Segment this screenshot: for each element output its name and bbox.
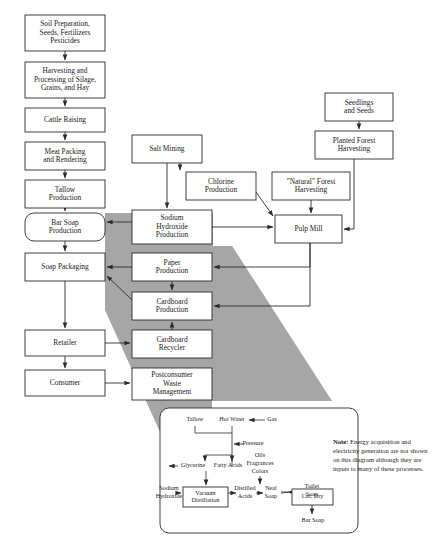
node-label-paper: Production [156, 266, 189, 275]
node-label-soil: Pesticides [50, 36, 80, 45]
node-label-retailer: Retailer [53, 338, 77, 347]
node-pulpmill[interactable]: Pulp Mill [275, 215, 342, 243]
inset-label-barsoap-out: Bar Soap [302, 516, 325, 523]
node-postconsumer[interactable]: PostconsumerWasteManagement [132, 368, 212, 400]
node-planted[interactable]: Planted ForestHarvesting [315, 131, 393, 159]
node-tallow[interactable]: TallowProduction [25, 180, 105, 208]
node-vacuum[interactable]: VacuumDistillation [183, 487, 228, 507]
node-chlorine[interactable]: ChlorineProduction [186, 172, 256, 200]
node-label-cardboard: Production [156, 305, 189, 314]
node-label-cattle: Cattle Raising [44, 115, 86, 124]
inset-label-oils: Oils [255, 451, 266, 458]
inset-label-distilled1: Distilled [234, 484, 256, 491]
node-natural[interactable]: "Natural" ForestHarvesting [272, 172, 350, 200]
inset-label-glycerine: Glycerine [181, 461, 206, 468]
node-label-barsoap: Production [49, 226, 82, 235]
inset-label-pressure: Pressure [243, 439, 264, 446]
inset-label-toilet1: Toilet [305, 482, 320, 489]
inset-label-colors: Colors [252, 467, 269, 474]
node-label-vacuum: Vacuum [195, 489, 215, 496]
node-label-meat: and Rendering [43, 155, 87, 164]
node-label-tallow: Production [49, 193, 82, 202]
inset-label-fragrances: Fragrances [246, 459, 274, 466]
node-label-pulpmill: Pulp Mill [294, 224, 322, 233]
node-cardboard[interactable]: CardboardProduction [132, 292, 212, 320]
node-barsoap[interactable]: Bar SoapProduction [25, 213, 105, 241]
node-label-vacuum: Distillation [192, 496, 220, 503]
inset-label-neat1: Neal [265, 484, 277, 491]
node-soappack[interactable]: Soap Packaging [25, 253, 105, 281]
node-label-cbrecycler: Recycler [159, 343, 186, 352]
inset-label-naoh-in-1: Sodium [159, 484, 178, 491]
node-salt[interactable]: Salt Mining [132, 135, 202, 163]
node-harvest[interactable]: Harvesting andProcessing of Silage,Grain… [25, 62, 105, 98]
inset-label-naoh-in-2: Hydroxide [156, 492, 183, 499]
inset-label-hotwater: Hot Water [219, 415, 244, 422]
node-soil[interactable]: Soil Preparation,Seeds, FertilizersPesti… [25, 15, 105, 51]
node-label-natural: Harvesting [295, 185, 328, 194]
node-label-consumer: Consumer [50, 378, 81, 387]
diagram-canvas: Soil Preparation,Seeds, FertilizersPesti… [0, 0, 434, 543]
inset-detail-panel: VacuumDistillationCut, Dry TallowHot Wat… [156, 408, 358, 533]
inset-label-neat2: Soap [265, 492, 277, 499]
node-label-soappack: Soap Packaging [41, 262, 89, 271]
note-label: Note: [333, 438, 348, 445]
node-label-seedlings: and Seeds [344, 106, 374, 115]
inset-label-toilet2: Soap [306, 490, 318, 497]
node-label-salt: Salt Mining [149, 144, 184, 153]
node-label-planted: Harvesting [338, 144, 371, 153]
note-text: Energy acquisition and electricity gener… [333, 438, 427, 472]
node-cbrecycler[interactable]: CardboardRecycler [132, 330, 212, 358]
node-cattle[interactable]: Cattle Raising [25, 108, 105, 132]
inset-label-fattyacids: Fatty Acids [214, 461, 243, 468]
edge-chlorine-to-pulpmill [256, 192, 273, 216]
node-seedlings[interactable]: Seedlingsand Seeds [325, 93, 393, 121]
node-paper[interactable]: PaperProduction [132, 253, 212, 281]
node-label-chlorine: Production [205, 185, 238, 194]
inset-label-gas: Gas [267, 415, 277, 422]
node-meat[interactable]: Meat Packingand Rendering [25, 142, 105, 170]
node-label-naoh: Production [156, 230, 189, 239]
node-retailer[interactable]: Retailer [25, 330, 105, 356]
inset-label-distilled2: Acids [238, 492, 253, 499]
node-consumer[interactable]: Consumer [25, 370, 105, 396]
inset-label-tallow-in: Tallow [186, 415, 204, 422]
note-block: Note: Energy acquisition and electricity… [333, 438, 429, 474]
node-naoh[interactable]: SodiumHydroxideProduction [132, 210, 212, 244]
node-boxes: Soil Preparation,Seeds, FertilizersPesti… [25, 15, 393, 400]
node-label-harvest: Grains, and Hay [41, 83, 90, 92]
node-label-postconsumer: Management [153, 387, 193, 396]
